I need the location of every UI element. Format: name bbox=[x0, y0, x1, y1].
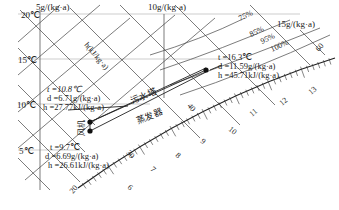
scale-label-8: 8 bbox=[174, 151, 183, 160]
saturation-curve bbox=[78, 58, 335, 188]
temp-label-5: 5℃ bbox=[19, 146, 34, 156]
scale-label-10: 10 bbox=[227, 125, 239, 137]
scale-label-6: 6 bbox=[126, 183, 135, 192]
scale-label-7: 7 bbox=[149, 165, 158, 174]
d-label-5: 5g/(kg·a) bbox=[36, 2, 70, 12]
fan-label: 风机 bbox=[76, 120, 86, 136]
h-label-20: 20 bbox=[68, 183, 80, 195]
rh-label-75: 75% bbox=[237, 8, 254, 22]
h-label-40: 40 bbox=[185, 102, 197, 114]
d-label-10: 10g/(kg·a) bbox=[148, 2, 186, 12]
evaporator-label: 蒸发器 bbox=[135, 106, 164, 126]
d-label-15: 15g/(kg·a) bbox=[277, 19, 315, 29]
scale-label-12: 12 bbox=[278, 95, 290, 107]
temp-label-10: 10℃ bbox=[17, 100, 36, 110]
state-a-annotation: t =10.8℃ d =6.71g/(kg·a) h =27.77kJ/(kg·… bbox=[43, 84, 104, 112]
scale-label-13: 13 bbox=[307, 84, 319, 96]
state-b-enthalpy: h =26.61kJ/(kg·a) bbox=[48, 160, 109, 170]
enthalpy-axis-label: h(kJ/kg·a) bbox=[82, 41, 110, 72]
scale-label-9: 9 bbox=[199, 137, 208, 146]
temp-label-15: 15℃ bbox=[18, 55, 37, 65]
state-b-annotation: t =9.7℃ d =6.69g/(kg·a) h =26.61kJ/(kg·a… bbox=[45, 142, 109, 170]
state-c-enthalpy: h =45.71kJ/(kg·a) bbox=[218, 70, 279, 80]
scale-label-11: 11 bbox=[248, 107, 260, 119]
point-c bbox=[203, 67, 208, 72]
point-a bbox=[87, 119, 92, 124]
state-a-enthalpy: h =27.77kJ/(kg·a) bbox=[43, 102, 104, 112]
h-label-60: 60 bbox=[314, 41, 326, 53]
scale-ticks bbox=[82, 58, 331, 188]
psychrometric-chart: 20℃ 15℃ 10℃ 5℃ 5g/(kg·a) 10g/(kg·a) 15g/… bbox=[0, 0, 339, 210]
state-c-annotation: t =16.3℃ d =11.59g/(kg·a) h =45.71kJ/(kg… bbox=[218, 52, 279, 80]
tower-label: 污水塔 bbox=[129, 86, 158, 106]
point-b bbox=[87, 128, 92, 133]
